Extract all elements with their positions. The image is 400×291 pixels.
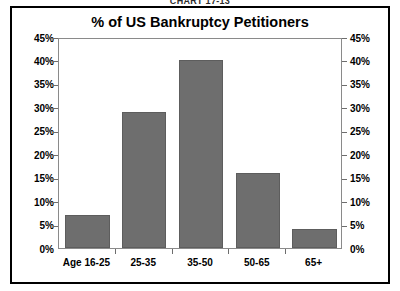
y-axis-right: 45%40%35%30%25%20%15%10%5%0%	[344, 38, 386, 249]
y-axis-tickmark	[342, 226, 347, 227]
y-axis-tickmark	[342, 132, 347, 133]
y-axis-right-tick-label: 35%	[350, 79, 370, 90]
x-axis-tickmark	[228, 249, 229, 254]
y-axis-left-tick-label: 45%	[34, 33, 54, 44]
y-axis-left: 45%40%35%30%25%20%15%10%5%0%	[14, 38, 56, 249]
x-axis-category-label: Age 16-25	[58, 257, 115, 269]
x-axis-category-label: 35-50	[172, 257, 229, 269]
y-axis-right-tick-label: 45%	[350, 33, 370, 44]
bar	[122, 112, 166, 248]
chart-frame: % of US Bankruptcy Petitioners 45%40%35%…	[10, 6, 390, 284]
y-axis-right-tick-label: 15%	[350, 173, 370, 184]
y-axis-right-tick-label: 5%	[350, 220, 364, 231]
x-axis-category-label: 25-35	[115, 257, 172, 269]
bar	[292, 229, 336, 248]
y-axis-left-tick-label: 20%	[34, 150, 54, 161]
y-axis-tickmark	[342, 61, 347, 62]
y-axis-right-tick-label: 0%	[350, 244, 364, 255]
bar	[236, 173, 280, 248]
x-axis-category-label: 65+	[285, 257, 342, 269]
y-axis-left-tick-label: 40%	[34, 56, 54, 67]
y-axis-left-tick-label: 0%	[40, 244, 54, 255]
chart-title: % of US Bankruptcy Petitioners	[12, 14, 388, 30]
y-axis-left-tick-label: 10%	[34, 197, 54, 208]
y-axis-left-tick-label: 25%	[34, 126, 54, 137]
y-axis-tickmark	[342, 179, 347, 180]
y-axis-right-tick-label: 20%	[350, 150, 370, 161]
x-axis-tickmark	[172, 249, 173, 254]
x-axis-tickmark	[115, 249, 116, 254]
y-axis-left-tick-label: 35%	[34, 79, 54, 90]
y-axis-right-tick-label: 40%	[350, 56, 370, 67]
x-axis-category-label: 50-65	[228, 257, 285, 269]
y-axis-left-tick-label: 15%	[34, 173, 54, 184]
y-axis-left-tick-label: 5%	[40, 220, 54, 231]
y-axis-tickmark	[342, 108, 347, 109]
y-axis-tickmark	[342, 155, 347, 156]
x-axis-category-labels: Age 16-2525-3535-5050-6565+	[58, 257, 342, 271]
y-axis-tickmark	[342, 38, 347, 39]
x-axis-tickmark	[285, 249, 286, 254]
y-axis-right-tick-label: 30%	[350, 103, 370, 114]
y-axis-tickmark	[342, 85, 347, 86]
y-axis-tickmark	[342, 202, 347, 203]
plot-area	[58, 38, 342, 249]
y-axis-left-tick-label: 30%	[34, 103, 54, 114]
y-axis-right-tick-label: 25%	[350, 126, 370, 137]
bar	[179, 60, 223, 248]
y-axis-right-tick-label: 10%	[350, 197, 370, 208]
bar	[65, 215, 109, 248]
